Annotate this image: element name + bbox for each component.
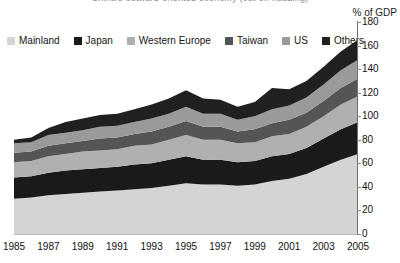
y-tick-mark	[357, 234, 361, 235]
plot-area	[14, 22, 358, 234]
y-tick-label-160: 160	[362, 41, 379, 51]
x-tick-label-1999: 1999	[244, 241, 266, 252]
y-tick-mark	[357, 140, 361, 141]
y-tick-label-100: 100	[362, 111, 379, 121]
title-text: China's outward-oriented economy (cut-of…	[0, 0, 400, 3]
y-tick-label-0: 0	[362, 229, 368, 239]
x-tick-label-1989: 1989	[72, 241, 94, 252]
cut-off-title: China's outward-oriented economy (cut-of…	[0, 0, 400, 9]
x-tick-label-2001: 2001	[278, 241, 300, 252]
y-tick-mark	[357, 163, 361, 164]
y-tick-label-140: 140	[362, 64, 379, 74]
y-tick-label-20: 20	[362, 205, 373, 215]
y-tick-label-60: 60	[362, 158, 373, 168]
y-tick-label-40: 40	[362, 182, 373, 192]
y-tick-mark	[357, 46, 361, 47]
x-tick-label-1985: 1985	[3, 241, 25, 252]
y-tick-mark	[357, 22, 361, 23]
y-tick-label-80: 80	[362, 135, 373, 145]
x-tick-label-1993: 1993	[140, 241, 162, 252]
x-tick-label-1991: 1991	[106, 241, 128, 252]
x-tick-label-2003: 2003	[312, 241, 334, 252]
y-tick-label-120: 120	[362, 88, 379, 98]
y-tick-mark	[357, 93, 361, 94]
x-tick-label-1997: 1997	[209, 241, 231, 252]
x-axis-tick-labels: 1985198719891991199319951997199920012003…	[0, 241, 400, 255]
x-tick-label-1995: 1995	[175, 241, 197, 252]
y-tick-label-180: 180	[362, 17, 379, 27]
y-axis-tick-labels: 020406080100120140160180	[362, 0, 400, 263]
y-tick-mark	[357, 116, 361, 117]
y-tick-mark	[357, 187, 361, 188]
x-tick-label-1987: 1987	[37, 241, 59, 252]
chart-page: China's outward-oriented economy (cut-of…	[0, 0, 400, 263]
x-tick-label-2005: 2005	[347, 241, 369, 252]
y-tick-mark	[357, 69, 361, 70]
y-axis-line	[357, 21, 358, 235]
y-tick-mark	[357, 210, 361, 211]
x-axis-baseline	[14, 234, 358, 235]
stacked-area-svg	[14, 22, 358, 234]
